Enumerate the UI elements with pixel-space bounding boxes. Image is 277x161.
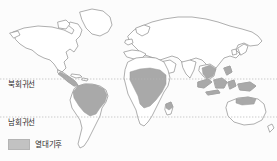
tropical-region-sumatra [198,79,212,88]
landmass-greenland [80,9,112,36]
tropic-of-cancer-label: 북회귀선 [8,81,35,89]
legend-label-tropical-climate: 열대기후 [35,141,62,149]
landmass-new-zealand [268,124,274,132]
landmass-north-america [13,22,82,72]
world-map-graphic [0,0,277,161]
landmass-cuba [71,74,82,78]
legend-swatch-tropical-climate [8,139,30,150]
tropic-of-capricorn-label: 남회귀선 [8,119,35,127]
tropical-region-new-guinea [238,82,256,91]
landmass-korea [232,49,237,55]
landmass-baffin-island [58,20,70,29]
tropical-region-java [206,90,220,95]
map-legend: 열대기후 [8,139,62,150]
landmass-hispaniola [82,78,88,81]
landmass-india [182,60,196,78]
world-climate-map-figure: 북회귀선 남회귀선 열대기후 [0,0,277,161]
